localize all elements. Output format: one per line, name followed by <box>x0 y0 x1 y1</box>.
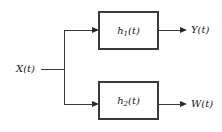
arrowhead-output-w <box>180 101 187 107</box>
arrowhead-into-h2 <box>92 101 99 107</box>
block-h2-label-arg: (t) <box>128 95 140 106</box>
output-label-w-arg: (t) <box>201 98 213 109</box>
arrowhead-into-h1 <box>92 27 99 33</box>
block-h1-label-arg: (t) <box>128 25 140 36</box>
input-label-x: X(t) <box>15 63 35 74</box>
output-label-y: Y(t) <box>191 24 210 35</box>
arrowhead-output-y <box>180 27 187 33</box>
output-label-y-arg: (t) <box>198 24 210 35</box>
block-diagram-canvas: h1(t) h2(t) X(t) Y(t) W(t) <box>0 0 222 132</box>
block-diagram-svg: h1(t) h2(t) X(t) Y(t) W(t) <box>0 0 222 132</box>
input-label-x-arg: (t) <box>23 63 35 74</box>
output-label-w: W(t) <box>191 98 213 109</box>
